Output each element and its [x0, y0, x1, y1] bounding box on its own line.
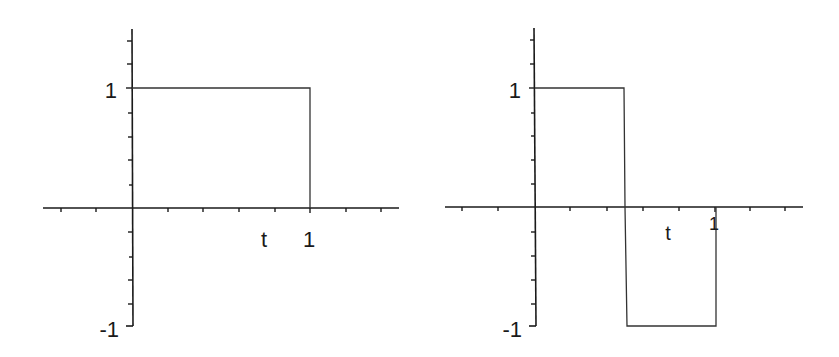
left-y-label-minus-one: -1	[99, 317, 119, 342]
right-x-axis-name: t	[665, 222, 671, 244]
figure: 1 -1 t 1	[0, 0, 839, 357]
right-y-label-one: 1	[509, 78, 521, 103]
right-y-label-minus-one: -1	[502, 317, 522, 342]
left-pulse-signal	[132, 88, 310, 208]
right-x-label-one: 1	[709, 214, 719, 234]
left-chart: 1 -1 t 1	[43, 29, 399, 342]
right-y-axis	[534, 28, 536, 326]
left-x-label-one: 1	[303, 227, 315, 252]
right-chart: 1 -1 t 1	[445, 28, 803, 342]
left-y-label-one: 1	[105, 78, 117, 103]
left-x-axis-name: t	[261, 227, 267, 252]
left-y-axis	[132, 29, 133, 326]
